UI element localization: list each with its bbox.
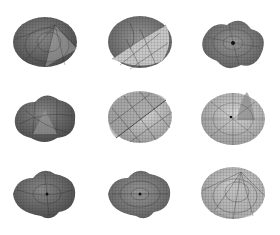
- surface-plot-r2c2: [100, 84, 180, 150]
- surface-plot-r2c1: [5, 84, 85, 150]
- surface-plot-r1c2: [100, 9, 180, 75]
- surface-plot-r1c1: [5, 9, 85, 75]
- surface-plot-r3c1: [5, 160, 85, 226]
- surface-plot-r1c3: [193, 9, 273, 75]
- surface-plot-r3c3: [193, 160, 273, 226]
- surface-plot-r2c3: [193, 84, 273, 150]
- surface-plot-r3c2: [100, 160, 180, 226]
